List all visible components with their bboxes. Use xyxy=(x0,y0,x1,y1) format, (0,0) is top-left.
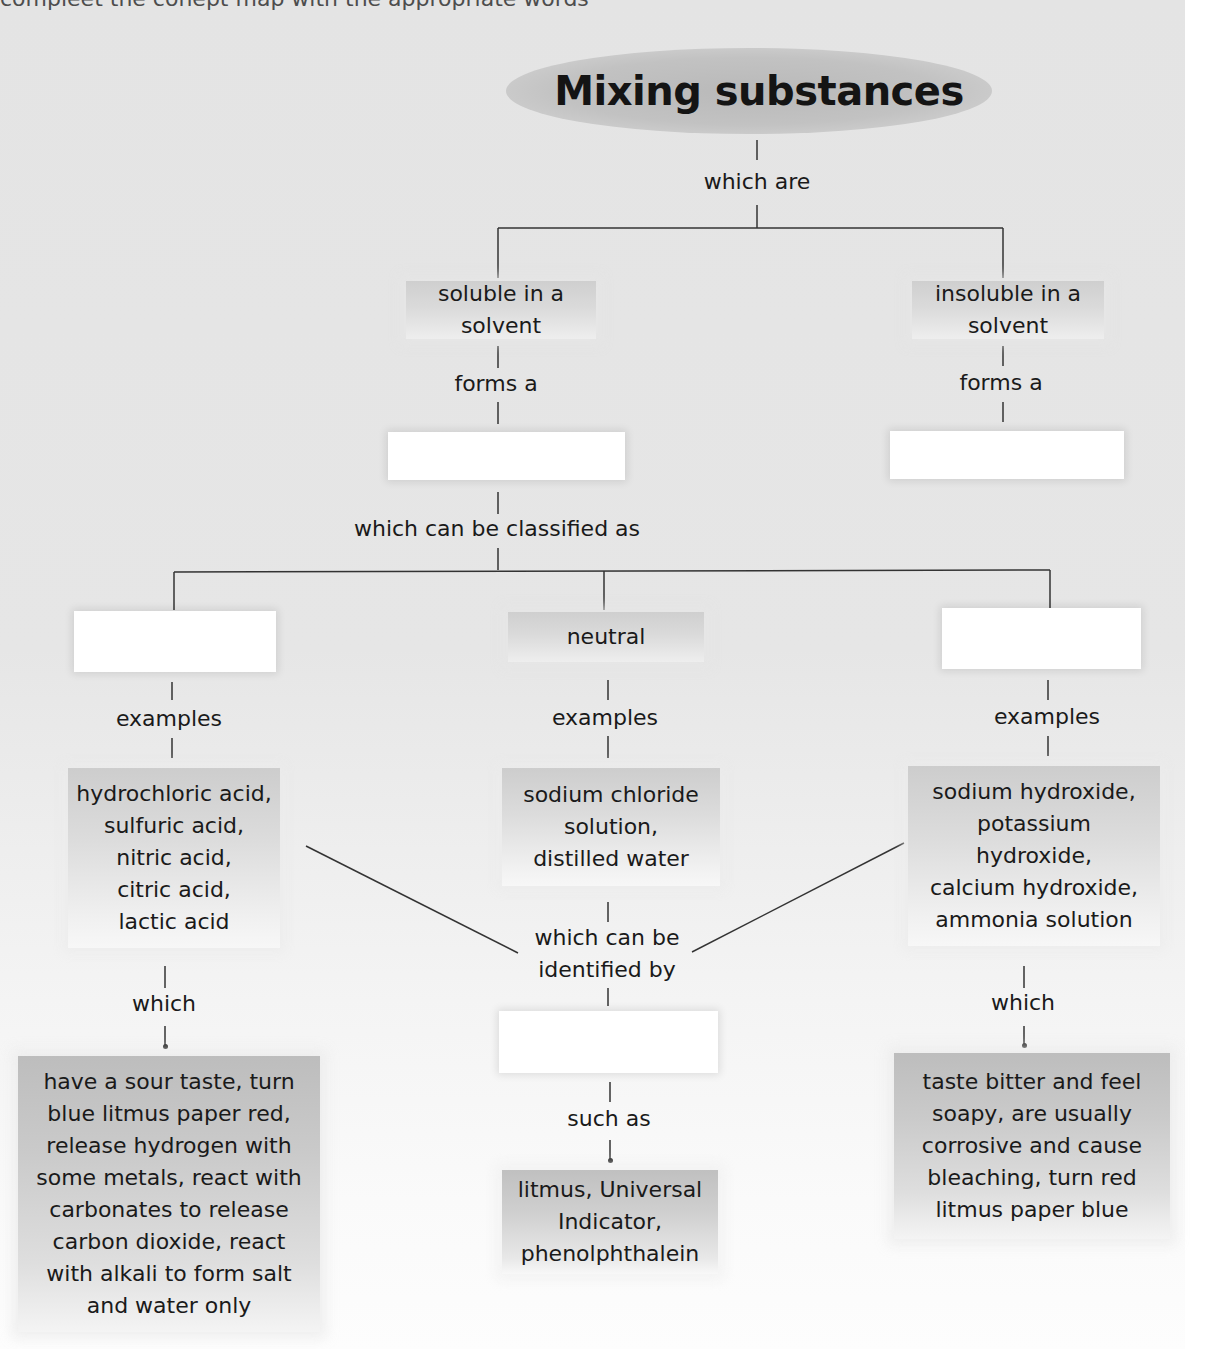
property-line: and water only xyxy=(87,1290,252,1322)
property-line: litmus paper blue xyxy=(935,1194,1128,1226)
examples-acids: hydrochloric acid, sulfuric acid, nitric… xyxy=(68,768,280,948)
link-which-right: which xyxy=(991,987,1055,1019)
link-such-as: such as xyxy=(567,1103,650,1135)
example-item: ammonia solution xyxy=(935,904,1132,936)
property-line: taste bitter and feel xyxy=(923,1066,1142,1098)
link-examples-right: examples xyxy=(994,701,1100,733)
example-item: hydrochloric acid, xyxy=(76,778,271,810)
example-item: nitric acid, xyxy=(116,842,232,874)
examples-alkalis: sodium hydroxide, potassium hydroxide, c… xyxy=(908,766,1160,946)
property-line: soapy, are usually xyxy=(932,1098,1132,1130)
property-line: blue litmus paper red, xyxy=(47,1098,290,1130)
link-examples-left: examples xyxy=(116,703,222,735)
indicators-node: litmus, Universal Indicator, phenolphtha… xyxy=(502,1170,718,1274)
property-line: with alkali to form salt xyxy=(46,1258,291,1290)
property-line: some metals, react with xyxy=(36,1162,301,1194)
link-which-are: which are xyxy=(704,166,811,198)
indicator-item: litmus, Universal xyxy=(518,1174,703,1206)
example-item: sulfuric acid, xyxy=(104,810,244,842)
property-line: have a sour taste, turn xyxy=(43,1066,294,1098)
link-examples-center: examples xyxy=(552,702,658,734)
indicator-item: Indicator, xyxy=(558,1206,662,1238)
examples-neutral: sodium chloride solution, distilled wate… xyxy=(502,768,720,886)
example-item: sodium chloride xyxy=(523,779,699,811)
blank-answer-box-insoluble[interactable] xyxy=(890,431,1124,479)
properties-acids: have a sour taste, turn blue litmus pape… xyxy=(18,1056,320,1332)
property-line: bleaching, turn red xyxy=(927,1162,1136,1194)
node-insoluble: insoluble in a solvent xyxy=(912,281,1104,339)
properties-alkalis: taste bitter and feel soapy, are usually… xyxy=(894,1053,1170,1239)
example-item: calcium hydroxide, xyxy=(930,872,1138,904)
example-item: sodium hydroxide, xyxy=(932,776,1135,808)
diagram-title: Mixing substances xyxy=(554,68,964,114)
link-identified-line1: which can be xyxy=(534,922,679,954)
blank-answer-box-category-right[interactable] xyxy=(942,608,1141,669)
node-neutral-label: neutral xyxy=(567,621,646,653)
node-soluble: soluble in a solvent xyxy=(406,281,596,339)
blank-answer-box-identifier[interactable] xyxy=(499,1011,718,1073)
arrow-tip-icon xyxy=(163,1044,168,1049)
link-forms-a-insoluble: forms a xyxy=(959,367,1042,399)
link-identified-line2: identified by xyxy=(534,954,679,986)
blank-answer-box-soluble[interactable] xyxy=(388,432,625,480)
link-which-left: which xyxy=(132,988,196,1020)
example-item: potassium xyxy=(977,808,1091,840)
node-insoluble-line1: insoluble in a xyxy=(935,278,1081,310)
node-insoluble-line2: solvent xyxy=(968,310,1048,342)
blank-answer-box-category-left[interactable] xyxy=(74,611,276,672)
property-line: release hydrogen with xyxy=(46,1130,291,1162)
title-node: Mixing substances xyxy=(506,48,992,134)
property-line: carbon dioxide, react xyxy=(53,1226,286,1258)
link-identified-by: which can be identified by xyxy=(534,922,679,986)
property-line: carbonates to release xyxy=(49,1194,288,1226)
link-classified-as: which can be classified as xyxy=(354,513,640,545)
node-soluble-line2: solvent xyxy=(461,310,541,342)
property-line: corrosive and cause xyxy=(922,1130,1142,1162)
arrow-tip-icon xyxy=(608,1158,613,1163)
node-neutral: neutral xyxy=(508,612,704,662)
arrow-tip-icon xyxy=(1022,1043,1027,1048)
indicator-item: phenolphthalein xyxy=(521,1238,700,1270)
example-item: lactic acid xyxy=(118,906,229,938)
example-item: hydroxide, xyxy=(976,840,1092,872)
example-item: citric acid, xyxy=(117,874,231,906)
example-item: solution, xyxy=(564,811,658,843)
link-forms-a-soluble: forms a xyxy=(454,368,537,400)
node-soluble-line1: soluble in a xyxy=(438,278,564,310)
example-item: distilled water xyxy=(533,843,689,875)
